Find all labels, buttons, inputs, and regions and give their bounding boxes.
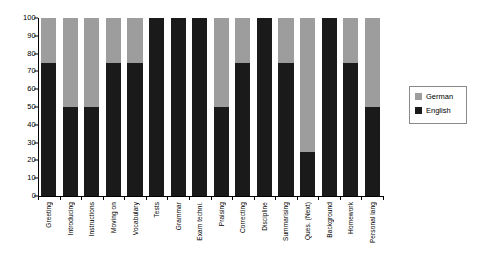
x-axis-tick-mark	[297, 196, 298, 200]
bar-group	[192, 18, 207, 196]
x-axis-tick-label: Praising	[218, 202, 225, 226]
bar-segment-english	[63, 107, 78, 196]
bar-segment-english	[106, 63, 121, 197]
y-axis-tick-label: 70	[0, 68, 36, 76]
bar-group	[300, 18, 315, 196]
bar-segment-english	[300, 152, 315, 197]
x-axis-tick-mark	[124, 196, 125, 200]
x-axis-tick-label: Ques. (Next)	[304, 202, 311, 240]
x-axis-tick-label: Personal lang	[369, 202, 376, 243]
x-axis-tick-mark	[103, 196, 104, 200]
y-axis-tick-label: 20	[0, 157, 36, 165]
legend-swatch-german	[415, 93, 422, 100]
x-axis-tick-mark	[146, 196, 147, 200]
x-axis-tick-mark	[361, 196, 362, 200]
bar-segment-english	[214, 107, 229, 196]
y-axis-tick-label: 50	[0, 103, 36, 111]
y-axis-tick-label: 10	[0, 174, 36, 182]
x-axis-tick-mark	[81, 196, 82, 200]
y-axis-tick-label: 90	[0, 32, 36, 40]
bar-segment-english	[41, 63, 56, 197]
bar-segment-english	[149, 18, 164, 196]
bar-segment-english	[365, 107, 380, 196]
x-axis-tick-label: Summarising	[282, 202, 289, 241]
y-axis-tick-label: 80	[0, 50, 36, 58]
x-axis-tick-label: Background	[326, 202, 333, 238]
legend-label-german: German	[426, 93, 453, 101]
bar-segment-english	[322, 18, 337, 196]
bar-group	[235, 18, 250, 196]
bar-segment-english	[84, 107, 99, 196]
x-axis-tick-mark	[167, 196, 168, 200]
y-axis-tick-label: 100	[0, 14, 36, 22]
bar-group	[257, 18, 272, 196]
legend-swatch-english	[415, 107, 422, 114]
x-axis-tick-label: Instructions	[88, 202, 95, 236]
plot-area	[38, 18, 383, 196]
x-axis-tick-mark	[232, 196, 233, 200]
bar-segment-english	[278, 63, 293, 197]
legend-item-german: German	[415, 93, 453, 101]
x-axis-tick-label: Greeting	[45, 202, 52, 228]
x-axis-tick-mark	[38, 196, 39, 200]
bar-segment-english	[192, 18, 207, 196]
x-axis-tick-mark	[383, 196, 384, 200]
x-axis-tick-mark	[340, 196, 341, 200]
x-axis-tick-mark	[254, 196, 255, 200]
bar-segment-english	[257, 18, 272, 196]
bar-group	[63, 18, 78, 196]
x-axis-tick-label: Exam techni.	[196, 202, 203, 241]
x-axis-tick-mark	[275, 196, 276, 200]
legend-label-english: English	[426, 107, 451, 115]
bar-group	[278, 18, 293, 196]
x-axis-tick-mark	[189, 196, 190, 200]
y-axis-tick-label: 30	[0, 139, 36, 147]
x-axis-tick-label: Tests	[153, 202, 160, 218]
bar-group	[365, 18, 380, 196]
x-axis-tick-mark	[60, 196, 61, 200]
x-axis-tick-mark	[318, 196, 319, 200]
x-axis-tick-label: Discipline	[261, 202, 268, 231]
bar-group	[41, 18, 56, 196]
chart-legend: German English	[409, 86, 467, 124]
bar-group	[343, 18, 358, 196]
bar-segment-english	[127, 63, 142, 197]
x-axis-tick-label: Correcting	[239, 202, 246, 233]
legend-item-english: English	[415, 107, 451, 115]
bar-group	[149, 18, 164, 196]
bar-segment-english	[235, 63, 250, 197]
bar-group	[322, 18, 337, 196]
bar-segment-english	[343, 63, 358, 197]
y-axis-tick-label: 40	[0, 121, 36, 129]
y-axis-tick-label: 60	[0, 85, 36, 93]
bar-group	[84, 18, 99, 196]
x-axis-tick-mark	[211, 196, 212, 200]
bar-segment-english	[171, 18, 186, 196]
stacked-bar-chart: 1009080706050403020100 GreetingIntroduci…	[0, 0, 477, 265]
y-axis-tick-label: 0	[0, 192, 36, 200]
bar-group	[214, 18, 229, 196]
x-axis-tick-label: Moving on	[110, 202, 117, 233]
bar-group	[171, 18, 186, 196]
x-axis-tick-label: Vocabulary	[132, 202, 139, 235]
x-axis-tick-label: Homework	[347, 202, 354, 234]
bar-group	[127, 18, 142, 196]
x-axis-tick-label: Introducing	[67, 202, 74, 235]
bar-group	[106, 18, 121, 196]
x-axis-tick-label: Grammar	[175, 202, 182, 230]
